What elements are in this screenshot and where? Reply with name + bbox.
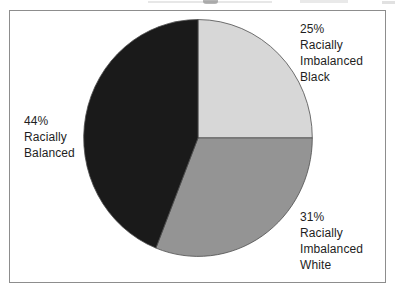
cropped-text-artifact [203,0,218,4]
cropped-text-artifact [148,1,272,3]
label-racially-imbalanced-black: 25% Racially Imbalanced Black [300,21,363,85]
cropped-text-artifact [382,1,395,4]
pie-slice-racially-imbalanced-black [198,20,312,138]
label-racially-balanced: 44% Racially Balanced [24,113,75,161]
cropped-text-artifact [300,0,348,3]
label-racially-imbalanced-white: 31% Racially Imbalanced White [300,209,363,273]
chart-frame: 25% Racially Imbalanced Black 31% Racial… [9,10,386,283]
figure-canvas: { "chart_data": { "type": "pie", "title"… [0,0,398,291]
